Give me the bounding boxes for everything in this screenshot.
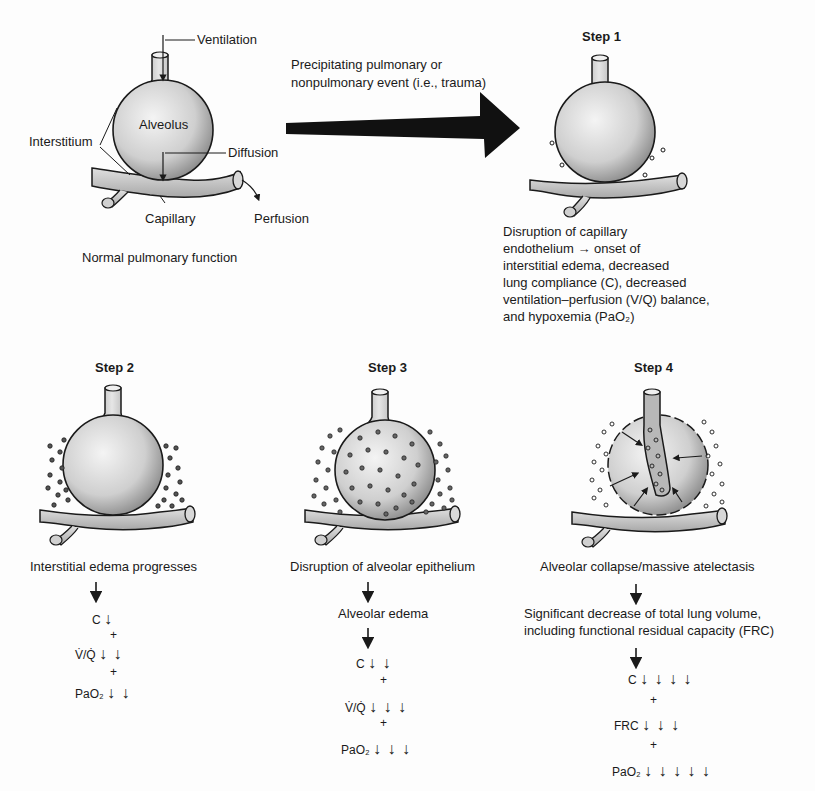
plus-sign: +: [650, 693, 657, 707]
down-arrows-icon: ↓ ↓ ↓: [642, 716, 680, 733]
step4-alveolus-figure: [572, 389, 727, 547]
down-arrows-icon: ↓ ↓: [107, 684, 130, 701]
step4-flow-3: including functional residual capacity (…: [524, 623, 774, 639]
plus-sign: +: [380, 673, 387, 687]
down-arrows-icon: ↓ ↓ ↓: [373, 740, 411, 757]
step2-alveolus-figure: [40, 385, 195, 545]
down-arrows-icon: ↓ ↓ ↓ ↓: [640, 670, 692, 687]
step2-effect-pao2: PaO₂ ↓ ↓: [75, 684, 130, 702]
label-capillary: Capillary: [145, 211, 196, 227]
label-interstitium: Interstitium: [29, 134, 93, 150]
step3-flow-2: Alveolar edema: [338, 606, 428, 622]
label-alveolus: Alveolus: [139, 117, 188, 133]
step3-effect-pao2: PaO₂ ↓ ↓ ↓: [341, 740, 411, 758]
step4-flow-2: Significant decrease of total lung volum…: [524, 606, 761, 622]
plus-sign: +: [110, 665, 117, 679]
plus-sign: +: [650, 738, 657, 752]
down-arrows-icon: ↓ ↓ ↓: [369, 698, 407, 715]
step2-effect-vq: V̇/Q̇ ↓ ↓: [75, 645, 122, 663]
down-arrows-icon: ↓ ↓: [368, 654, 391, 671]
plus-sign: +: [110, 628, 117, 642]
step4-title: Step 4: [634, 360, 673, 375]
step4-flow-1: Alveolar collapse/massive atelectasis: [540, 559, 755, 575]
step2-title: Step 2: [95, 360, 134, 375]
step4-effect-frc: FRC ↓ ↓ ↓: [614, 716, 680, 734]
step1-alveolus-figure: [530, 55, 687, 217]
down-arrows-icon: ↓: [104, 610, 113, 627]
plus-sign: +: [380, 716, 387, 730]
diagram-artwork: [0, 0, 815, 791]
big-transition-arrow: [286, 92, 520, 158]
step3-alveolus-figure: [305, 389, 460, 545]
step4-effect-pao2: PaO₂ ↓ ↓ ↓ ↓ ↓: [612, 762, 711, 780]
event-caption: Precipitating pulmonary or nonpulmonary …: [291, 56, 486, 92]
down-arrows-icon: ↓ ↓: [99, 645, 122, 662]
label-diffusion: Diffusion: [228, 145, 278, 161]
step3-flow-1: Disruption of alveolar epithelium: [290, 559, 475, 575]
step2-flow-1: Interstitial edema progresses: [30, 559, 197, 575]
step2-effect-c: C ↓: [92, 610, 113, 628]
step3-effect-c: C ↓ ↓: [356, 654, 391, 672]
step3-title: Step 3: [368, 360, 407, 375]
down-arrows-icon: ↓ ↓ ↓ ↓ ↓: [644, 762, 711, 779]
step1-title: Step 1: [582, 29, 621, 44]
label-perfusion: Perfusion: [254, 211, 309, 227]
step1-description: Disruption of capillary endothelium → on…: [503, 223, 710, 325]
step3-effect-vq: V̇/Q̇ ↓ ↓ ↓: [345, 698, 407, 716]
label-ventilation: Ventilation: [197, 32, 257, 48]
caption-normal-function: Normal pulmonary function: [82, 250, 237, 266]
step4-effect-c: C ↓ ↓ ↓ ↓: [628, 670, 692, 688]
